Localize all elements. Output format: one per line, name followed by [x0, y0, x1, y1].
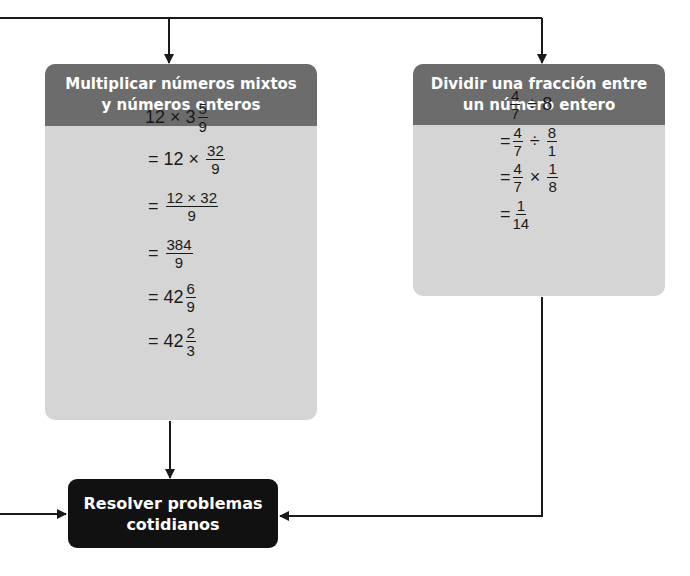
denominator: 9: [175, 254, 183, 270]
final-box: Resolver problemas cotidianos: [68, 479, 278, 548]
right-card-connector: [290, 297, 542, 516]
times-sign: ×: [530, 167, 541, 188]
equals-sign: =: [148, 196, 159, 217]
numerator: 2: [186, 325, 196, 342]
numerator: 4: [510, 88, 520, 105]
number: 12: [145, 107, 165, 128]
fraction: 47: [513, 161, 523, 194]
denominator: 9: [188, 207, 196, 223]
numerator: 4: [513, 125, 523, 142]
times-sign: ×: [189, 149, 200, 170]
numerator: 32: [206, 143, 225, 160]
fraction: 23: [186, 325, 196, 358]
equals-sign: =: [148, 149, 159, 170]
number: 3: [186, 107, 196, 128]
equals-sign: =: [500, 204, 511, 225]
equals-sign: =: [500, 167, 511, 188]
times-sign: ×: [170, 107, 181, 128]
equation-step: 47÷8: [508, 88, 552, 121]
whole-number: 42: [164, 287, 184, 308]
fraction: 81: [547, 125, 557, 158]
equation-step: =4223: [143, 325, 198, 358]
divide-sign: ÷: [530, 131, 540, 152]
numerator: 5: [198, 101, 208, 118]
equation-step: =47×18: [500, 161, 560, 194]
final-line-2: cotidianos: [83, 514, 262, 535]
numerator: 384: [166, 237, 193, 254]
equation-step: =47÷81: [500, 125, 559, 158]
denominator: 9: [187, 298, 195, 314]
final-line-1: Resolver problemas: [83, 493, 262, 514]
number: 8: [542, 94, 552, 115]
numerator: 1: [547, 161, 557, 178]
equation-step: =3849: [143, 237, 195, 270]
equation-step: =4269: [143, 281, 198, 314]
numerator: 1: [516, 198, 526, 215]
header-line-1: Multiplicar números mixtos: [65, 74, 297, 95]
fraction: 47: [513, 125, 523, 158]
fraction: 3849: [166, 237, 193, 270]
fraction: 69: [186, 281, 196, 314]
fraction: 114: [513, 198, 530, 231]
denominator: 7: [514, 178, 522, 194]
equation-step: =12 × 329: [143, 190, 220, 223]
multiply-mixed-card: Multiplicar números mixtos y números ent…: [45, 64, 317, 420]
denominator: 9: [199, 118, 207, 134]
whole-number: 42: [164, 331, 184, 352]
denominator: 8: [548, 178, 556, 194]
equals-sign: =: [148, 287, 159, 308]
denominator: 1: [548, 142, 556, 158]
equation-step: =12×329: [143, 143, 227, 176]
numerator: 12 × 32: [166, 190, 218, 207]
divide-sign: ÷: [527, 94, 537, 115]
denominator: 7: [514, 142, 522, 158]
denominator: 3: [187, 342, 195, 358]
denominator: 7: [511, 105, 519, 121]
denominator: 9: [211, 160, 219, 176]
numerator: 6: [186, 281, 196, 298]
equals-sign: =: [148, 331, 159, 352]
fraction: 59: [198, 101, 208, 134]
fraction: 18: [547, 161, 557, 194]
divide-fraction-card: Dividir una fracción entre un número ent…: [413, 64, 665, 296]
equals-sign: =: [500, 131, 511, 152]
numerator: 8: [547, 125, 557, 142]
equals-sign: =: [148, 243, 159, 264]
equation-step: 12×359: [145, 101, 210, 134]
fraction: 329: [206, 143, 225, 176]
fraction: 12 × 329: [166, 190, 218, 223]
fraction: 47: [510, 88, 520, 121]
equation-step: =114: [500, 198, 531, 231]
denominator: 14: [513, 215, 530, 231]
number: 12: [164, 149, 184, 170]
numerator: 4: [513, 161, 523, 178]
